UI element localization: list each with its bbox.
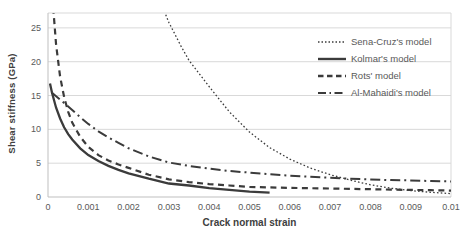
x-tick-label: 0.007 xyxy=(319,202,342,212)
x-tick-label: 0.004 xyxy=(198,202,221,212)
legend: Sena-Cruz's modelKolmar's modelRots' mod… xyxy=(318,36,432,98)
x-tick-label: 0.008 xyxy=(359,202,382,212)
x-tick-label: 0.001 xyxy=(77,202,100,212)
legend-label: Rots' model xyxy=(351,70,401,81)
y-axis-title: Shear stiffness (GPa) xyxy=(6,24,17,184)
x-axis-title: Crack normal strain xyxy=(48,217,451,228)
legend-item: Sena-Cruz's model xyxy=(318,36,432,47)
x-tick-label: 0 xyxy=(45,202,50,212)
legend-line-sample-dotted xyxy=(318,38,346,46)
shear-stiffness-chart: 00.0010.0020.0030.0040.0050.0060.0070.00… xyxy=(0,0,473,241)
x-tick-label: 0.01 xyxy=(442,202,460,212)
legend-label: Sena-Cruz's model xyxy=(351,36,432,47)
legend-line-sample-solid xyxy=(318,55,346,63)
x-tick-label: 0.006 xyxy=(279,202,302,212)
legend-line-sample-dashed xyxy=(318,72,346,80)
x-tick-label: 0.005 xyxy=(238,202,261,212)
y-tick-label: 10 xyxy=(31,124,41,134)
legend-item: Rots' model xyxy=(318,70,432,81)
legend-label: Kolmar's model xyxy=(351,53,416,64)
x-tick-label: 0.003 xyxy=(158,202,181,212)
legend-item: Kolmar's model xyxy=(318,53,432,64)
x-tick-label: 0.002 xyxy=(117,202,140,212)
y-tick-label: 20 xyxy=(31,57,41,67)
legend-line-sample-dashdot xyxy=(318,89,346,97)
legend-item: Al-Mahaidi's model xyxy=(318,87,432,98)
y-tick-label: 25 xyxy=(31,23,41,33)
y-tick-label: 15 xyxy=(31,91,41,101)
legend-label: Al-Mahaidi's model xyxy=(351,87,431,98)
x-tick-label: 0.009 xyxy=(399,202,422,212)
y-tick-label: 0 xyxy=(36,192,41,202)
y-tick-label: 5 xyxy=(36,158,41,168)
